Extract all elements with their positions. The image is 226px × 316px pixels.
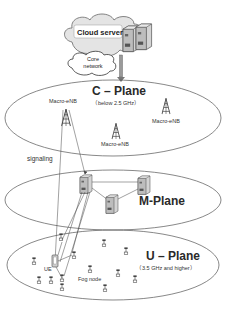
macro-enb-label-3: Macro-eNB: [152, 118, 180, 124]
fog-node-icon: [32, 257, 36, 264]
fog-node-icon: [133, 275, 137, 282]
fog-node-icon: [103, 284, 107, 291]
fog-node-icons: [32, 233, 137, 291]
m-plane-title: M-Plane: [139, 194, 185, 208]
c-plane-title: C – Plane: [92, 84, 146, 98]
fog-node-icon: [60, 274, 64, 281]
fog-node-icon: [60, 283, 64, 290]
fog-node-icon: [124, 247, 128, 254]
m-plane-server-icon: [138, 176, 150, 194]
m-plane-server-icon: [80, 175, 92, 193]
fog-node-icon: [88, 265, 92, 272]
u-plane-title: U – Plane: [146, 249, 200, 263]
cloud-server-icon: [123, 24, 152, 52]
fog-node-icon: [72, 251, 76, 258]
fog-node-label: Fog node: [78, 276, 101, 282]
signaling-label: signaling: [27, 155, 53, 162]
macro-enb-label-2: Macro-eNB: [101, 141, 129, 147]
ue-label: UE: [44, 266, 52, 272]
macro-enb-tower-icon: [112, 123, 120, 139]
core-network-label-line2: network: [80, 63, 106, 70]
backhaul-arrow: [117, 55, 125, 82]
cloud-server-label: Cloud server: [77, 28, 123, 37]
u-plane-subtitle: （3.5 GHz and higher）: [136, 264, 196, 272]
fog-node-icon: [102, 239, 106, 246]
fog-node-icon: [49, 276, 53, 283]
core-network-label: Core network: [80, 56, 106, 70]
fog-node-icon: [116, 269, 120, 276]
macro-enb-label-1: Macro-eNB: [49, 98, 77, 104]
fog-node-icon: [37, 276, 41, 283]
macro-enb-tower-icon: [162, 98, 170, 114]
m-plane-server-icon: [106, 195, 118, 213]
core-network-label-line1: Core: [80, 56, 106, 63]
c-plane-subtitle: （below 2.5 GHz）: [92, 99, 140, 107]
